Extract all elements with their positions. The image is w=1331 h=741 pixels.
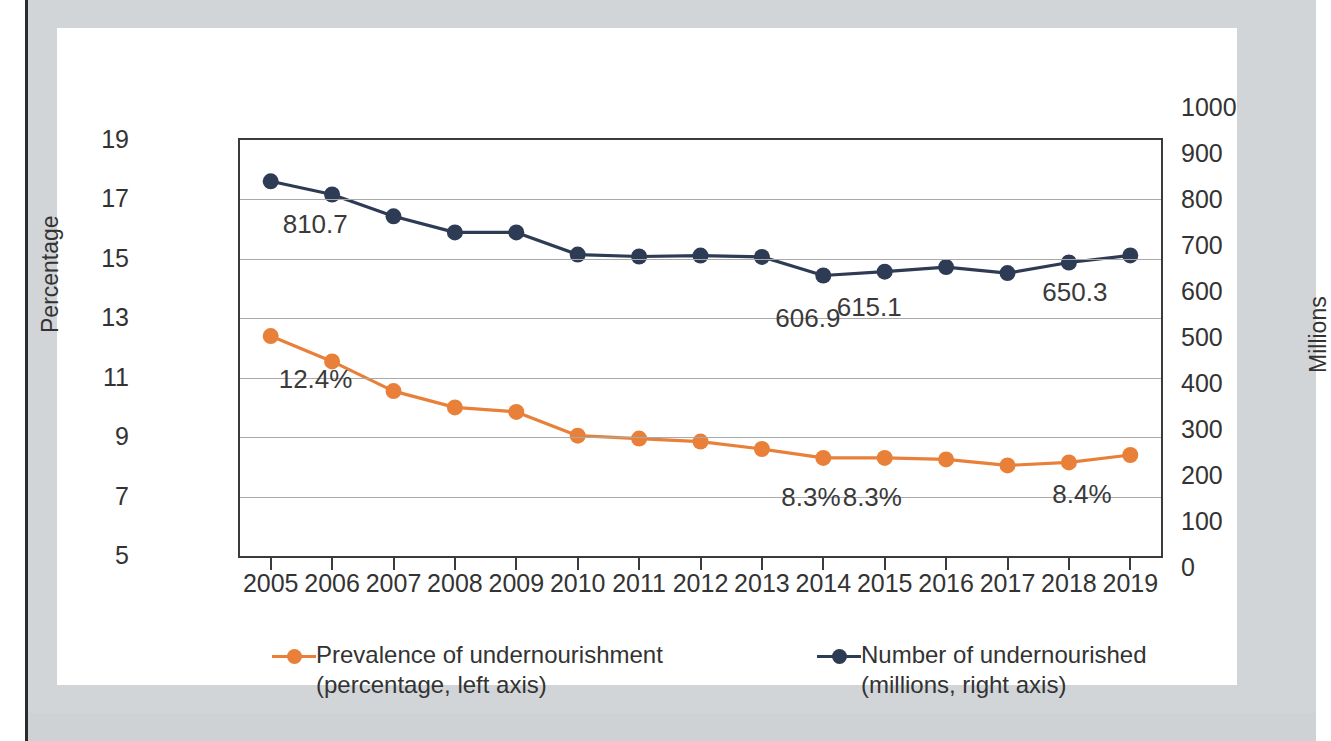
legend-label: Number of undernourished(millions, right… <box>861 640 1147 700</box>
gridline <box>240 318 1161 319</box>
data-label: 810.7 <box>283 211 348 237</box>
x-axis-tick-label: 2019 <box>1085 571 1175 596</box>
series-data-point <box>263 173 279 189</box>
series-data-point <box>631 249 647 265</box>
series-data-point <box>447 224 463 240</box>
gridline <box>240 497 1161 498</box>
y-axis-left-tick-label: 15 <box>59 246 129 271</box>
legend-label: Prevalence of undernourishment(percentag… <box>316 640 663 700</box>
chart-canvas: Percentage Millions 1917151311975 100090… <box>57 28 1237 685</box>
data-label: 615.1 <box>837 294 902 320</box>
legend-label-secondary: (millions, right axis) <box>861 670 1147 700</box>
series-data-point <box>386 383 402 399</box>
figure-grey-frame-bottom <box>28 713 1316 741</box>
series-data-point <box>938 451 954 467</box>
series-data-point <box>570 247 586 263</box>
series-data-point <box>1061 454 1077 470</box>
y-axis-right-tick-label: 0 <box>1181 555 1271 580</box>
legend-dot <box>832 649 847 664</box>
series-data-point <box>386 208 402 224</box>
y-axis-right-title: Millions <box>1305 296 1331 373</box>
legend-item[interactable]: Prevalence of undernourishment(percentag… <box>272 640 663 700</box>
series-data-point <box>1122 447 1138 463</box>
legend-marker-icon <box>272 643 316 669</box>
series-data-point <box>1000 265 1016 281</box>
data-label: 12.4% <box>279 366 353 392</box>
gridline <box>240 378 1161 379</box>
legend-label-primary: Number of undernourished <box>861 640 1147 670</box>
y-axis-left-tick-label: 7 <box>59 484 129 509</box>
y-axis-right-tick-label: 800 <box>1181 187 1271 212</box>
y-axis-right-tick-label: 500 <box>1181 325 1271 350</box>
series-data-point <box>570 428 586 444</box>
series-data-point <box>815 450 831 466</box>
series-data-point <box>1061 255 1077 271</box>
data-label: 8.4% <box>1052 481 1111 507</box>
y-axis-left-tick-label: 11 <box>59 365 129 390</box>
y-axis-left-tick-label: 13 <box>59 305 129 330</box>
y-axis-right-tick-label: 200 <box>1181 463 1271 488</box>
series-data-point <box>754 441 770 457</box>
series-data-point <box>693 248 709 264</box>
series-layer <box>240 140 1161 556</box>
y-axis-left-tick-label: 17 <box>59 186 129 211</box>
series-data-point <box>263 328 279 344</box>
legend-label-primary: Prevalence of undernourishment <box>316 640 663 670</box>
chart-legend: Prevalence of undernourishment(percentag… <box>57 628 1237 708</box>
y-axis-left-tick-label: 9 <box>59 424 129 449</box>
legend-label-secondary: (percentage, left axis) <box>316 670 663 700</box>
legend-item[interactable]: Number of undernourished(millions, right… <box>817 640 1147 700</box>
series-data-point <box>631 431 647 447</box>
data-label: 650.3 <box>1042 279 1107 305</box>
data-label: 606.9 <box>775 305 840 331</box>
y-axis-right-tick-label: 100 <box>1181 509 1271 534</box>
series-data-point <box>754 249 770 265</box>
series-data-point <box>1000 457 1016 473</box>
series-data-point <box>938 259 954 275</box>
gridline <box>240 437 1161 438</box>
series-data-point <box>508 224 524 240</box>
data-label: 8.3% <box>843 484 902 510</box>
series-data-point <box>508 404 524 420</box>
y-axis-left-tick-label: 5 <box>59 543 129 568</box>
y-axis-right-tick-label: 900 <box>1181 141 1271 166</box>
series-data-point <box>693 434 709 450</box>
series-data-point <box>815 268 831 284</box>
plot-area <box>238 138 1163 558</box>
y-axis-left-tick-label: 19 <box>59 127 129 152</box>
series-data-point <box>877 264 893 280</box>
legend-dot <box>287 649 302 664</box>
series-data-point <box>1122 247 1138 263</box>
gridline <box>240 259 1161 260</box>
y-axis-right-tick-label: 1000 <box>1181 95 1271 120</box>
legend-marker-icon <box>817 643 861 669</box>
gridline <box>240 199 1161 200</box>
series-data-point <box>447 399 463 415</box>
y-axis-right-tick-label: 600 <box>1181 279 1271 304</box>
y-axis-right-tick-label: 400 <box>1181 371 1271 396</box>
data-label: 8.3% <box>781 484 840 510</box>
y-axis-right-tick-label: 700 <box>1181 233 1271 258</box>
series-data-point <box>877 450 893 466</box>
y-axis-right-tick-label: 300 <box>1181 417 1271 442</box>
